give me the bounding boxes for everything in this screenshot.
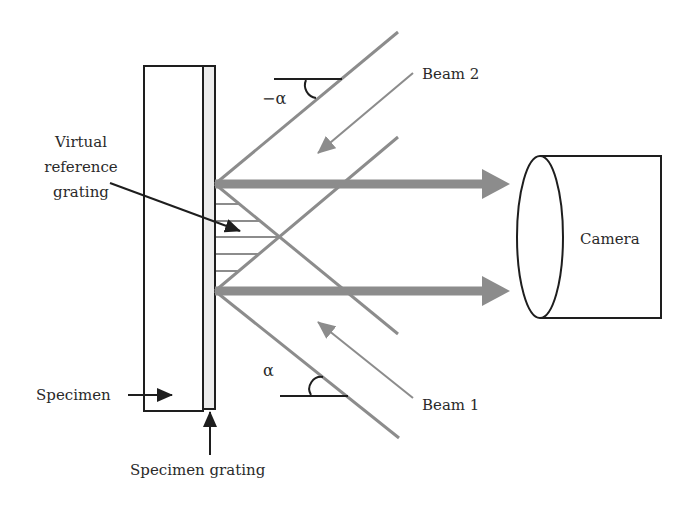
specimen-grating-strip <box>203 66 215 409</box>
label-specimen: Specimen <box>36 386 111 404</box>
label-reference: reference <box>44 158 118 176</box>
virtual-reference-fringes <box>216 204 280 271</box>
beam-1-direction-arrow <box>318 322 413 398</box>
label-alpha: α <box>263 361 274 380</box>
angle-marker-beam-1 <box>280 377 348 396</box>
label-specimen-grating: Specimen grating <box>130 461 266 479</box>
label-camera: Camera <box>580 230 640 248</box>
label-neg-alpha: −α <box>262 89 286 108</box>
specimen-block <box>144 66 203 411</box>
label-grating: grating <box>53 183 109 201</box>
label-virtual: Virtual <box>54 133 107 151</box>
label-beam-2: Beam 2 <box>422 65 479 83</box>
moire-interferometry-diagram: Virtual reference grating Beam 2 Beam 1 … <box>0 0 698 507</box>
beam-1-rays <box>215 184 399 438</box>
beam-2-rays <box>215 32 398 291</box>
camera-lens <box>517 156 563 318</box>
label-beam-1: Beam 1 <box>422 396 479 414</box>
